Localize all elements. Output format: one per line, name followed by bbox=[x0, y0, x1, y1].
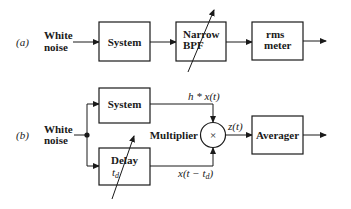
averager-label: Averager bbox=[256, 129, 299, 141]
block-diagram: (a) White noise System Narrow BPF rms me… bbox=[0, 0, 351, 209]
diagram-b-label: (b) bbox=[16, 129, 29, 142]
system-block-a-label: System bbox=[108, 36, 142, 48]
wire-system-to-multiplier bbox=[150, 104, 213, 122]
wire-delay-to-multiplier bbox=[150, 148, 213, 166]
white-noise-label-a-line2: noise bbox=[44, 41, 68, 53]
white-noise-label-a-line1: White bbox=[44, 29, 73, 41]
rms-meter-label-line2: meter bbox=[264, 39, 292, 51]
multiply-icon: × bbox=[210, 129, 216, 141]
multiplier-label: Multiplier bbox=[150, 129, 198, 141]
diagram-a-label: (a) bbox=[16, 36, 29, 49]
signal-label-z: z(t) bbox=[227, 120, 243, 133]
signal-label-delay-out: x(t − td) bbox=[177, 167, 214, 181]
signal-label-system-out: h * x(t) bbox=[188, 90, 220, 103]
system-block-b-label: System bbox=[108, 98, 142, 110]
delay-block-label: Delay bbox=[111, 154, 138, 166]
diagram-b: (b) White noise System Delay td h * x(t)… bbox=[16, 88, 326, 199]
white-noise-label-b-line2: noise bbox=[44, 134, 68, 146]
diagram-a: (a) White noise System Narrow BPF rms me… bbox=[16, 10, 326, 72]
